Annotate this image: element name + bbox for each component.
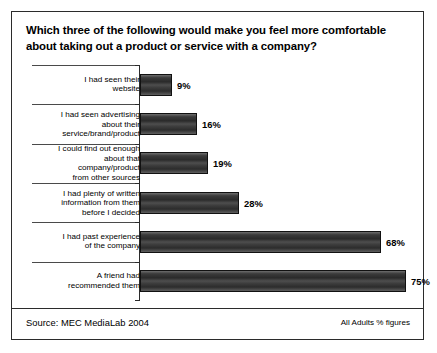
chart-title: Which three of the following would make … [26, 23, 412, 54]
category-divider [32, 262, 140, 263]
axis-tick [135, 183, 140, 184]
bar-value-4: 28% [244, 197, 263, 208]
category-label: I had seen their website [36, 75, 140, 94]
bar-4 [140, 192, 239, 214]
category-divider [32, 65, 140, 66]
category-divider [32, 104, 140, 105]
source-label: Source: MEC MediaLab 2004 [26, 317, 149, 328]
plot-area: I had seen their website 9% I had seen a… [26, 65, 410, 301]
chart-row: A friend had recommended them 75% [26, 262, 410, 301]
category-label: A friend had recommended them [36, 272, 140, 291]
category-divider [32, 183, 140, 184]
bar-3 [140, 152, 208, 174]
bar-value-2: 16% [202, 118, 221, 129]
chart-row: I could find out enough about that compa… [26, 144, 410, 183]
bar-5 [140, 231, 381, 253]
category-label: I had past experience of the company [36, 232, 140, 251]
chart-row: I had past experience of the company 68% [26, 222, 410, 261]
axis-tick [135, 262, 140, 263]
bar-value-6: 75% [411, 276, 430, 287]
bar-1 [140, 74, 172, 96]
category-divider [32, 222, 140, 223]
bar-value-5: 68% [386, 236, 405, 247]
axis-tick [135, 300, 140, 301]
bar-value-3: 19% [213, 158, 232, 169]
chart-frame: Which three of the following would make … [11, 11, 424, 340]
axis-tick [135, 104, 140, 105]
axis-tick [135, 222, 140, 223]
axis-tick [135, 65, 140, 66]
category-label: I could find out enough about that compa… [36, 144, 140, 182]
chart-row: I had seen advertising about their servi… [26, 104, 410, 143]
bar-value-1: 9% [177, 79, 191, 90]
chart-row: I had plenty of written information from… [26, 183, 410, 222]
figures-note-label: All Adults % figures [341, 318, 410, 327]
footer-divider [12, 308, 423, 309]
bar-6 [140, 270, 406, 292]
bar-2 [140, 113, 197, 135]
category-label: I had seen advertising about their servi… [36, 110, 140, 139]
chart-row: I had seen their website 9% [26, 65, 410, 104]
category-label: I had plenty of written information from… [36, 188, 140, 217]
